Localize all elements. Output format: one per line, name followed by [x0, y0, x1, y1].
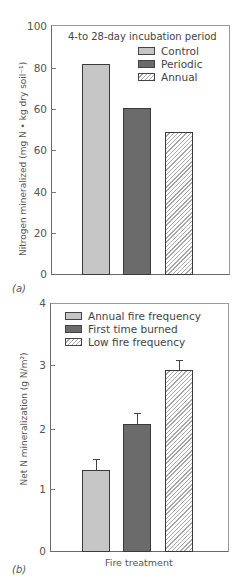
- panel-label-b: (b): [12, 564, 26, 575]
- legend-label: Annual: [161, 71, 198, 83]
- legend-item-periodic: Periodic: [138, 58, 202, 70]
- y-tick: [50, 365, 55, 366]
- error-bar: [137, 413, 138, 424]
- y-tick: [50, 429, 55, 430]
- y-tick: [51, 150, 56, 151]
- legend-swatch-light: [65, 312, 82, 320]
- legend-item-first-burned: First time burned: [65, 323, 178, 335]
- legend-item-low-fire: Low fire frequency: [65, 336, 185, 348]
- bar-low-fire: [165, 370, 193, 552]
- legend-item-annual-fire: Annual fire frequency: [65, 310, 201, 322]
- legend-swatch-hatched: [65, 338, 82, 346]
- legend-swatch-dark: [138, 60, 155, 68]
- y-axis-label: Net N mineralization (g N/m²): [19, 339, 29, 499]
- legend-label: Low fire frequency: [88, 336, 185, 348]
- x-axis-label: Fire treatment: [105, 557, 173, 568]
- error-cap: [93, 459, 100, 460]
- y-tick-label: 4: [20, 297, 46, 309]
- y-tick: [51, 233, 56, 234]
- y-tick-label: 100: [21, 20, 47, 32]
- bar-control: [82, 64, 110, 275]
- y-tick: [51, 109, 56, 110]
- bar-periodic: [123, 108, 151, 275]
- y-tick: [51, 192, 56, 193]
- error-cap: [134, 413, 141, 414]
- legend-label: Periodic: [161, 58, 202, 70]
- bar-annual-fire: [82, 470, 110, 552]
- legend-swatch-light: [138, 47, 155, 55]
- legend-label: Annual fire frequency: [88, 310, 201, 322]
- y-tick-label: 0: [21, 268, 47, 280]
- legend-label: First time burned: [88, 323, 178, 335]
- bar-first-burned: [123, 424, 151, 552]
- chart-subtitle: 4-to 28-day incubation period: [68, 31, 217, 42]
- bar-annual: [165, 132, 193, 275]
- legend-swatch-dark: [65, 325, 82, 333]
- panel-label-a: (a): [12, 283, 26, 294]
- error-bar: [179, 360, 180, 370]
- y-tick: [51, 68, 56, 69]
- error-bar: [96, 459, 97, 470]
- legend-label: Control: [161, 45, 199, 57]
- legend-swatch-hatched: [138, 73, 155, 81]
- y-tick: [50, 489, 55, 490]
- y-axis-label: Nitrogen mineralized (mg N • kg dry soil…: [18, 66, 28, 256]
- legend-item-control: Control: [138, 45, 199, 57]
- y-tick-label: 0: [20, 545, 46, 557]
- legend-item-annual: Annual: [138, 71, 198, 83]
- error-cap: [176, 360, 183, 361]
